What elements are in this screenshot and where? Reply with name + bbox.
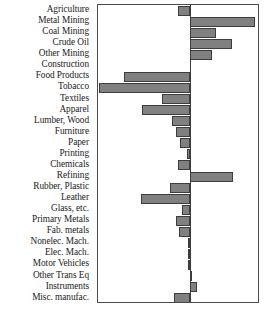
category-label: Refining <box>0 170 93 181</box>
bar-row <box>98 160 258 171</box>
category-label: Fab. metals <box>0 225 93 236</box>
bar-row <box>98 116 258 127</box>
category-label: Printing <box>0 148 93 159</box>
bar-chart: AgricultureMetal MiningCoal MiningCrude … <box>0 0 264 309</box>
bar <box>182 205 190 215</box>
bars-layer <box>98 5 258 302</box>
bar <box>141 194 190 204</box>
bar <box>99 83 190 93</box>
bar <box>179 227 190 237</box>
category-label: Textiles <box>0 93 93 104</box>
category-label: Rubber, Plastic <box>0 181 93 192</box>
category-axis-labels: AgricultureMetal MiningCoal MiningCrude … <box>0 4 93 303</box>
category-label: Chemicals <box>0 159 93 170</box>
bar-row <box>98 38 258 49</box>
bar <box>162 94 190 104</box>
category-label: Instruments <box>0 281 93 292</box>
category-label: Primary Metals <box>0 214 93 225</box>
category-label: Leather <box>0 192 93 203</box>
category-label: Paper <box>0 137 93 148</box>
bar-row <box>98 60 258 71</box>
bar <box>190 50 212 60</box>
category-label: Other Mining <box>0 48 93 59</box>
category-label: Furniture <box>0 126 93 137</box>
bar-row <box>98 282 258 293</box>
category-label: Metal Mining <box>0 15 93 26</box>
bar <box>142 105 190 115</box>
bar <box>190 172 233 182</box>
bar <box>172 116 190 126</box>
bar-row <box>98 237 258 248</box>
bar <box>190 282 197 292</box>
bar-row <box>98 71 258 82</box>
bar <box>178 6 190 16</box>
zero-reference-line <box>190 5 191 302</box>
category-label: Crude Oil <box>0 37 93 48</box>
bar-row <box>98 193 258 204</box>
category-label: Apparel <box>0 104 93 115</box>
bar-row <box>98 49 258 60</box>
category-label: Other Trans Eq <box>0 270 93 281</box>
category-label: Elec. Mach. <box>0 247 93 258</box>
bar-row <box>98 226 258 237</box>
bar-row <box>98 259 258 270</box>
category-label: Food Products <box>0 70 93 81</box>
bar-row <box>98 138 258 149</box>
bar-row <box>98 149 258 160</box>
bar <box>190 39 232 49</box>
bar-row <box>98 16 258 27</box>
bar <box>176 127 190 137</box>
category-label: Tobacco <box>0 81 93 92</box>
bar-row <box>98 204 258 215</box>
category-label: Nonelec. Mach. <box>0 236 93 247</box>
bar-row <box>98 293 258 303</box>
bar-row <box>98 82 258 93</box>
category-label: Agriculture <box>0 4 93 15</box>
bar-row <box>98 127 258 138</box>
bar-row <box>98 215 258 226</box>
bar-row <box>98 27 258 38</box>
bar <box>176 216 190 226</box>
bar-row <box>98 5 258 16</box>
category-label: Coal Mining <box>0 26 93 37</box>
plot-area <box>97 4 259 303</box>
bar <box>180 138 190 148</box>
category-label: Misc. manufac. <box>0 292 93 303</box>
bar <box>190 28 216 38</box>
bar <box>190 17 255 27</box>
category-label: Construction <box>0 59 93 70</box>
category-label: Lumber, Wood <box>0 115 93 126</box>
bar-row <box>98 271 258 282</box>
bar-row <box>98 105 258 116</box>
bar-row <box>98 248 258 259</box>
bar-row <box>98 182 258 193</box>
bar <box>178 160 190 170</box>
bar <box>124 72 190 82</box>
category-label: Glass, etc. <box>0 203 93 214</box>
bar-row <box>98 94 258 105</box>
bar-row <box>98 171 258 182</box>
category-label: Motor Vehicles <box>0 258 93 269</box>
bar <box>174 293 190 303</box>
bar <box>170 183 190 193</box>
